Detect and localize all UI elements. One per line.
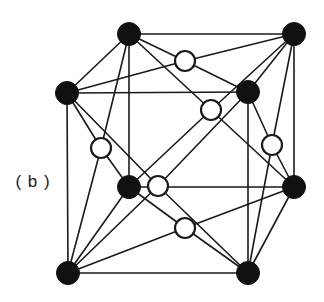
corner-atom	[118, 23, 141, 46]
atom-bond	[158, 186, 248, 273]
cube-edge	[68, 187, 129, 273]
crystal-structure-figure: ( b )	[0, 0, 324, 302]
cube-edge	[248, 187, 294, 273]
corner-atom	[283, 176, 306, 199]
cube-edge	[67, 93, 68, 273]
corner-atom	[283, 23, 306, 46]
cube-edge	[67, 92, 248, 93]
crystal-structure-diagram	[0, 0, 324, 302]
atom-bond	[185, 187, 294, 228]
atom-bond	[248, 145, 272, 273]
corner-atom	[237, 262, 260, 285]
corner-atom	[237, 81, 260, 104]
corner-atom	[118, 176, 141, 199]
corner-atom	[56, 82, 79, 105]
atom-bond	[129, 34, 211, 110]
atom-bond	[68, 228, 185, 273]
panel-label: ( b )	[8, 172, 58, 192]
corner-atom	[57, 262, 80, 285]
atom-bond	[129, 110, 211, 187]
atom-bond	[67, 93, 158, 186]
atom-bond	[185, 34, 294, 61]
atom-bond	[68, 148, 101, 273]
